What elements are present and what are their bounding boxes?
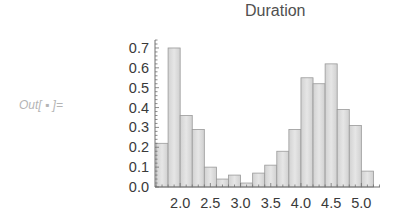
- y-tick-label: 0.5: [129, 80, 149, 96]
- x-tick-label: 2.5: [200, 195, 220, 211]
- histogram-bar: [168, 48, 180, 187]
- y-tick-label: 0.7: [129, 40, 149, 56]
- histogram-bar: [337, 110, 349, 187]
- histogram-bar: [313, 84, 325, 187]
- x-tick-label: 4.0: [291, 195, 311, 211]
- y-tick-label: 0.1: [129, 159, 149, 175]
- histogram-bar: [277, 151, 289, 187]
- x-tick-label: 3.5: [261, 195, 281, 211]
- y-axis-ticks: 0.00.10.20.30.40.50.60.7: [129, 40, 159, 195]
- x-tick-label: 4.5: [321, 195, 341, 211]
- histogram-bar: [180, 116, 192, 187]
- x-tick-label: 2.0: [170, 195, 190, 211]
- y-tick-label: 0.2: [129, 139, 149, 155]
- y-tick-label: 0.0: [129, 179, 149, 195]
- histogram-bar: [289, 129, 301, 187]
- histogram-bar: [349, 125, 361, 187]
- histogram-bar: [325, 64, 337, 187]
- histogram-bar: [192, 129, 204, 187]
- y-tick-label: 0.3: [129, 119, 149, 135]
- histogram-bar: [156, 143, 168, 187]
- histogram-bar: [301, 78, 313, 187]
- histogram-bars: [156, 48, 373, 187]
- x-tick-label: 3.0: [230, 195, 250, 211]
- y-tick-label: 0.4: [129, 100, 149, 116]
- y-tick-label: 0.6: [129, 60, 149, 76]
- histogram-chart: 0.00.10.20.30.40.50.60.7 2.02.53.03.54.0…: [0, 0, 402, 217]
- x-tick-label: 5.0: [351, 195, 371, 211]
